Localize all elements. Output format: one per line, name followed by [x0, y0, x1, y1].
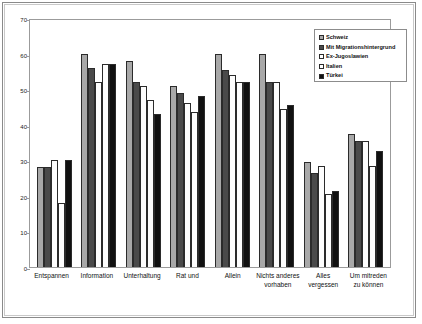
legend-item[interactable]: Italien	[319, 62, 403, 72]
y-axis-tick-label: 10	[20, 230, 27, 236]
bar[interactable]	[280, 109, 287, 267]
bar[interactable]	[44, 167, 51, 267]
bar[interactable]	[88, 68, 95, 267]
legend-label: Türkei	[326, 73, 343, 79]
y-axis-tick-label: 30	[20, 159, 27, 165]
bar[interactable]	[243, 82, 250, 267]
bar[interactable]	[311, 173, 318, 267]
bar[interactable]	[58, 203, 65, 267]
y-axis-tick-label: 40	[20, 124, 27, 130]
bar[interactable]	[332, 191, 339, 267]
legend-swatch-icon	[319, 54, 324, 59]
bar[interactable]	[376, 151, 383, 267]
legend-label: Mit Migrationshintergrund	[326, 45, 395, 51]
bar[interactable]	[65, 160, 72, 267]
x-axis-labels: EntspannenInformationUnterhaltungRat und…	[29, 271, 391, 315]
bar[interactable]	[140, 86, 147, 267]
x-axis-label: Entspannen	[29, 271, 74, 315]
bar[interactable]	[325, 194, 332, 267]
bar[interactable]	[126, 61, 133, 267]
bar[interactable]	[266, 82, 273, 267]
chart-frame: 010203040506070 EntspannenInformationUnt…	[2, 2, 416, 318]
bar[interactable]	[362, 141, 369, 267]
x-axis-label: Rat und	[165, 271, 210, 315]
legend-item[interactable]: Mit Migrationshintergrund	[319, 43, 403, 53]
x-axis-label: Unterhaltung	[120, 271, 165, 315]
y-axis-tick-label: 60	[20, 53, 27, 59]
bar[interactable]	[348, 134, 355, 267]
bar[interactable]	[287, 105, 294, 267]
bar[interactable]	[147, 100, 154, 267]
bar-group	[170, 20, 205, 267]
legend-label: Ex-Jugoslawien	[326, 54, 368, 60]
legend-item[interactable]: Türkei	[319, 71, 403, 81]
bar[interactable]	[102, 64, 109, 267]
legend-swatch-icon	[319, 45, 324, 50]
bar[interactable]	[198, 96, 205, 267]
legend-item[interactable]: Ex-Jugoslawien	[319, 52, 403, 62]
bar[interactable]	[304, 162, 311, 267]
bar[interactable]	[133, 82, 140, 267]
y-axis-tick-label: 70	[20, 17, 27, 23]
bar[interactable]	[273, 82, 280, 267]
legend-item[interactable]: Schweiz	[319, 33, 403, 43]
y-axis-tick-label: 50	[20, 88, 27, 94]
legend-label: Schweiz	[326, 35, 348, 41]
bar[interactable]	[215, 54, 222, 267]
chart-legend: SchweizMit MigrationshintergrundEx-Jugos…	[314, 29, 407, 82]
x-axis-label: Information	[74, 271, 119, 315]
y-axis-tick-mark	[27, 269, 30, 270]
bar[interactable]	[191, 112, 198, 267]
bar[interactable]	[81, 54, 88, 267]
legend-swatch-icon	[319, 35, 324, 40]
legend-swatch-icon	[319, 64, 324, 69]
bar[interactable]	[95, 82, 102, 267]
bar[interactable]	[236, 82, 243, 267]
legend-swatch-icon	[319, 74, 324, 79]
x-axis-label: Nichts anderes vorhaben	[255, 271, 300, 315]
x-axis-label: Um mitreden zu können	[346, 271, 391, 315]
bar-group	[215, 20, 250, 267]
bar-group	[37, 20, 72, 267]
bar[interactable]	[51, 160, 58, 267]
x-axis-label: Allein	[210, 271, 255, 315]
bar[interactable]	[355, 141, 362, 267]
bar[interactable]	[259, 54, 266, 267]
legend-label: Italien	[326, 64, 342, 70]
bar[interactable]	[154, 114, 161, 267]
bar[interactable]	[184, 103, 191, 267]
bar[interactable]	[229, 75, 236, 267]
x-axis-label: Alles vergessen	[301, 271, 346, 315]
bar[interactable]	[37, 167, 44, 267]
bar-group	[81, 20, 116, 267]
bar[interactable]	[318, 166, 325, 267]
bar-group	[259, 20, 294, 267]
bar-group	[126, 20, 161, 267]
bar[interactable]	[177, 93, 184, 267]
bar[interactable]	[170, 86, 177, 267]
bar[interactable]	[222, 70, 229, 267]
bar[interactable]	[109, 64, 116, 267]
y-axis-tick-label: 20	[20, 195, 27, 201]
bar[interactable]	[369, 166, 376, 267]
